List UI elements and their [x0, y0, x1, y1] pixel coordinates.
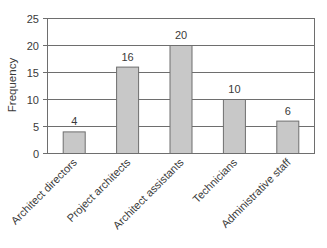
bar — [170, 46, 192, 154]
bar — [63, 132, 85, 154]
value-label: 16 — [121, 51, 133, 63]
y-tick-label: 20 — [27, 40, 39, 52]
category-label: Technicians — [190, 156, 239, 205]
value-label: 6 — [285, 105, 291, 117]
value-label: 20 — [175, 29, 187, 41]
y-tick-label: 5 — [33, 121, 39, 133]
bar-chart: 0510152025 41620106 Architect directorsP… — [0, 0, 327, 248]
y-tick-label: 0 — [33, 148, 39, 160]
y-axis-title: Frequency — [6, 58, 18, 113]
value-label: 4 — [71, 115, 77, 127]
x-axis-labels: Architect directorsProject architectsArc… — [8, 155, 293, 231]
y-tick-label: 15 — [27, 67, 39, 79]
bar — [277, 121, 299, 153]
y-tick-label: 25 — [27, 13, 39, 25]
value-label: 10 — [228, 83, 240, 95]
bar — [117, 67, 139, 153]
y-axis-ticks: 0510152025 — [27, 13, 47, 160]
y-tick-label: 10 — [27, 94, 39, 106]
bar — [223, 100, 245, 154]
